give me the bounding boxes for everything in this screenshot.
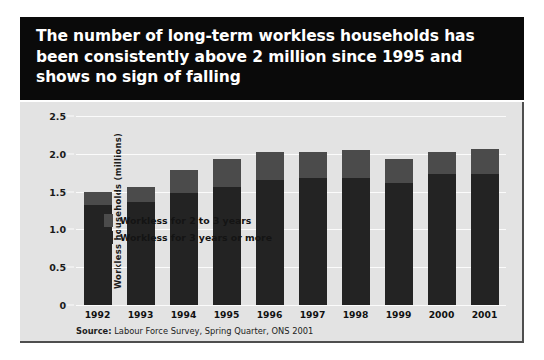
x-tick-label: 1998 — [333, 309, 379, 320]
bar-segment-2to3 — [299, 152, 327, 178]
legend-swatch-3plus-icon — [104, 231, 113, 244]
x-tick-label: 2001 — [462, 309, 508, 320]
bar-segment-3plus — [299, 178, 327, 305]
bar-segment-3plus — [342, 178, 370, 305]
bar-segment-3plus — [385, 183, 413, 305]
chart-page: The number of long-term workless househo… — [0, 0, 544, 360]
y-tick-label: 0.5 — [26, 262, 66, 273]
x-tick-label: 1994 — [161, 309, 207, 320]
legend-label-2to3: Workless for 2 to 3 years — [120, 215, 251, 226]
plot-area: Workless households (millions) 00.51.01.… — [76, 116, 506, 305]
y-tick-label: 0 — [26, 300, 66, 311]
legend-label-3plus: Workless for 3 years or more — [120, 232, 272, 243]
x-tick-label: 2000 — [419, 309, 465, 320]
gridline — [76, 116, 506, 117]
bar-segment-3plus — [428, 174, 456, 305]
x-tick-label: 1999 — [376, 309, 422, 320]
bar-segment-2to3 — [213, 159, 241, 187]
y-tick-mark — [67, 116, 74, 117]
gridline — [76, 305, 506, 306]
bar-segment-2to3 — [342, 150, 370, 178]
y-tick-label: 1.0 — [26, 224, 66, 235]
bar-segment-2to3 — [428, 152, 456, 175]
y-tick-mark — [67, 153, 74, 154]
y-tick-label: 2.5 — [26, 111, 66, 122]
y-tick-mark — [67, 191, 74, 192]
x-tick-label: 1992 — [75, 309, 121, 320]
bar-segment-2to3 — [471, 149, 499, 174]
y-tick-mark — [67, 267, 74, 268]
legend: Workless for 2 to 3 years Workless for 3… — [104, 213, 272, 247]
x-tick-label: 1993 — [118, 309, 164, 320]
x-tick-label: 1997 — [290, 309, 336, 320]
x-tick-label: 1995 — [204, 309, 250, 320]
bar-segment-2to3 — [127, 187, 155, 202]
page-title: The number of long-term workless househo… — [36, 26, 508, 88]
y-tick-label: 1.5 — [26, 186, 66, 197]
legend-item: Workless for 3 years or more — [104, 230, 272, 245]
y-axis-title: Workless households (millions) — [113, 132, 123, 288]
bar-segment-3plus — [170, 193, 198, 305]
bar-segment-2to3 — [256, 152, 284, 181]
source-note: Source: Labour Force Survey, Spring Quar… — [76, 326, 313, 336]
chart-panel: Workless households (millions) 00.51.01.… — [20, 102, 524, 343]
bar-segment-2to3 — [84, 192, 112, 205]
bar-segment-2to3 — [385, 159, 413, 182]
y-tick-mark — [67, 229, 74, 230]
x-tick-label: 1996 — [247, 309, 293, 320]
title-band: The number of long-term workless househo… — [20, 17, 524, 100]
y-tick-mark — [67, 305, 74, 306]
y-tick-label: 2.0 — [26, 148, 66, 159]
source-label: Source: — [76, 326, 112, 336]
bar-segment-2to3 — [170, 170, 198, 193]
source-text: Labour Force Survey, Spring Quarter, ONS… — [112, 326, 314, 336]
bar-segment-3plus — [471, 174, 499, 305]
legend-swatch-2to3-icon — [104, 214, 113, 227]
legend-item: Workless for 2 to 3 years — [104, 213, 272, 228]
